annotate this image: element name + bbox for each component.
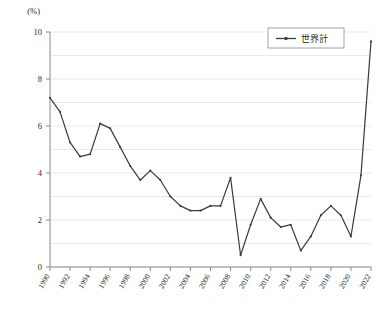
y-axis-tick-label: 10	[34, 27, 43, 37]
gridlines	[50, 32, 371, 267]
x-axis-tick-label: 1992	[56, 272, 71, 290]
x-axis-tick-label: 2002	[157, 272, 172, 290]
x-axis-tick-label: 2022	[357, 272, 372, 290]
data-point	[59, 111, 61, 113]
data-point	[89, 153, 91, 155]
data-point	[290, 224, 292, 226]
data-point	[139, 179, 141, 181]
series-line-0	[50, 41, 371, 255]
x-axis-tick-labels: 1990199219941996199820002002200420062008…	[36, 267, 372, 290]
data-point	[250, 224, 252, 226]
data-point	[340, 214, 342, 216]
y-axis-unit-label: (%)	[27, 6, 40, 16]
data-point	[199, 210, 201, 212]
legend-swatch-marker	[284, 37, 287, 40]
data-point	[300, 250, 302, 252]
x-axis-tick-label: 2020	[337, 272, 352, 290]
data-point	[219, 205, 221, 207]
data-point	[270, 217, 272, 219]
data-point	[49, 97, 51, 99]
x-axis-tick-label: 2004	[177, 272, 192, 290]
x-axis-tick-label: 1990	[36, 272, 51, 290]
data-point	[99, 123, 101, 125]
x-axis-tick-label: 2008	[217, 272, 232, 290]
y-axis-tick-label: 4	[38, 168, 43, 178]
data-point	[189, 210, 191, 212]
data-point	[350, 235, 352, 237]
x-axis-tick-label: 1994	[76, 272, 91, 290]
data-point	[370, 40, 372, 42]
data-point	[360, 174, 362, 176]
y-axis-tick-label: 2	[38, 215, 42, 225]
data-point	[280, 226, 282, 228]
data-point	[69, 141, 71, 143]
x-axis-tick-label: 2018	[317, 272, 332, 290]
x-axis-tick-label: 1996	[97, 272, 112, 290]
data-point	[260, 198, 262, 200]
data-point	[129, 165, 131, 167]
x-axis-tick-label: 2016	[297, 272, 312, 290]
data-point	[169, 195, 171, 197]
data-point	[119, 146, 121, 148]
legend-label-world-total: 世界計	[301, 33, 328, 44]
y-axis-tick-label: 0	[38, 262, 42, 272]
data-point	[310, 235, 312, 237]
chart-container: (%) 0246810 1990199219941996199820002002…	[0, 0, 384, 309]
data-point	[240, 254, 242, 256]
data-point	[230, 177, 232, 179]
data-point	[149, 170, 151, 172]
x-axis-tick-label: 1998	[117, 272, 132, 290]
data-point	[159, 179, 161, 181]
chart-legend: 世界計	[268, 28, 344, 48]
line-chart: (%) 0246810 1990199219941996199820002002…	[0, 0, 384, 309]
x-axis-tick-label: 2014	[277, 272, 292, 290]
y-axis-tick-labels: 0246810	[34, 27, 51, 272]
series-group	[49, 40, 372, 256]
x-axis-tick-label: 2012	[257, 272, 272, 290]
x-axis-tick-label: 2010	[237, 272, 252, 290]
y-axis-tick-label: 6	[38, 121, 42, 131]
data-point	[330, 205, 332, 207]
x-axis-tick-label: 2000	[137, 272, 152, 290]
x-axis-tick-label: 2006	[197, 272, 212, 290]
data-point	[209, 205, 211, 207]
data-point	[109, 127, 111, 129]
data-point	[320, 214, 322, 216]
y-axis-tick-label: 8	[38, 74, 42, 84]
data-point	[179, 205, 181, 207]
data-point	[79, 156, 81, 158]
